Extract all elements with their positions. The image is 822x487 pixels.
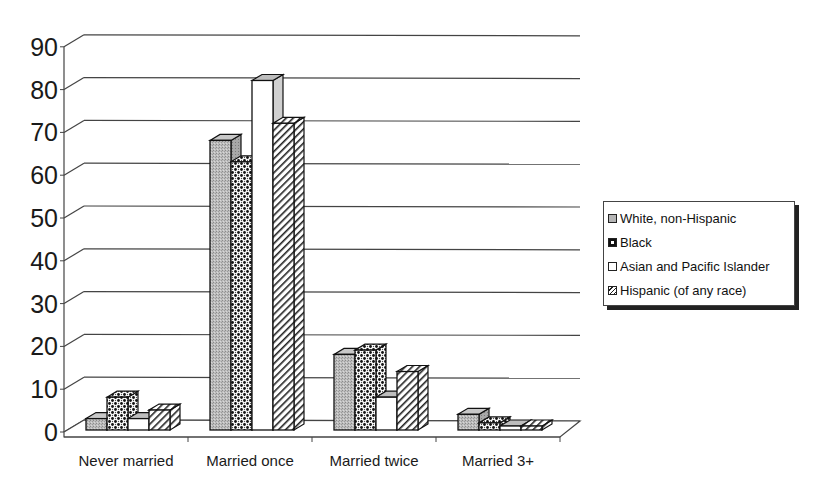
- y-tick-label: 50: [30, 204, 58, 232]
- y-tick-label: 30: [30, 290, 58, 318]
- gridline-depth: [64, 163, 84, 175]
- gridline: [84, 206, 580, 207]
- bar: [252, 80, 273, 430]
- gridline-depth: [64, 249, 84, 261]
- bar-group-married-twice: [334, 344, 428, 430]
- x-tick-label: Married 3+: [462, 452, 534, 469]
- legend-label: Asian and Pacific Islander: [620, 259, 770, 274]
- bar: [334, 354, 355, 430]
- bar: [500, 426, 521, 430]
- gridline: [84, 292, 580, 293]
- legend-item-black: Black: [608, 230, 794, 254]
- gridline: [84, 163, 580, 164]
- chart-legend: White, non-Hispanic Black Asian and Paci…: [603, 201, 795, 306]
- y-tick-label: 40: [30, 247, 58, 275]
- gridline: [84, 249, 580, 250]
- gridline: [84, 78, 580, 79]
- legend-item-white: White, non-Hispanic: [608, 206, 794, 230]
- legend-label: White, non-Hispanic: [620, 211, 736, 226]
- bar-group-never-married: [86, 391, 180, 430]
- y-tick-label: 60: [30, 161, 58, 189]
- bar-group-married-3-: [458, 408, 552, 430]
- bar: [107, 397, 128, 430]
- legend-swatch-white-icon: [608, 262, 617, 271]
- y-tick-label: 0: [44, 418, 58, 446]
- bar: [397, 372, 418, 430]
- bar: [355, 350, 376, 430]
- bar: [149, 410, 170, 430]
- gridline-depth: [64, 78, 84, 90]
- legend-label: Black: [620, 235, 652, 250]
- gridline-depth: [64, 35, 84, 47]
- bar: [521, 426, 542, 430]
- gridline: [84, 377, 580, 378]
- bar-group-married-once: [210, 74, 304, 430]
- gridline: [84, 35, 580, 36]
- bar: [231, 162, 252, 430]
- y-tick-label: 90: [30, 33, 58, 61]
- x-tick-label: Never married: [78, 452, 173, 469]
- bar: [128, 419, 149, 430]
- y-tick-label: 20: [30, 332, 58, 360]
- gridline: [84, 120, 580, 121]
- gridline-depth: [64, 334, 84, 346]
- legend-swatch-hatch-icon: [608, 286, 617, 295]
- legend-label: Hispanic (of any race): [620, 283, 746, 298]
- legend-swatch-gray-icon: [608, 214, 617, 223]
- legend-item-asian: Asian and Pacific Islander: [608, 254, 794, 278]
- bar: [376, 397, 397, 430]
- gridline-depth: [64, 292, 84, 304]
- legend-swatch-dots-icon: [608, 238, 617, 247]
- gridline: [84, 334, 580, 335]
- bar: [458, 414, 479, 430]
- y-tick-label: 80: [30, 76, 58, 104]
- x-tick-label: Married once: [206, 452, 294, 469]
- bar: [273, 123, 294, 430]
- legend-item-hispanic: Hispanic (of any race): [608, 278, 794, 302]
- y-tick-label: 10: [30, 375, 58, 403]
- bar: [86, 419, 107, 430]
- bar-side: [418, 366, 428, 430]
- bar-side: [294, 117, 304, 430]
- x-tick-label: Married twice: [329, 452, 418, 469]
- gridline-depth: [64, 377, 84, 389]
- chart-root: 0102030405060708090Never marriedMarried …: [30, 33, 580, 469]
- bar: [210, 140, 231, 430]
- y-tick-label: 70: [30, 118, 58, 146]
- bar: [479, 423, 500, 430]
- gridline-depth: [64, 206, 84, 218]
- gridline-depth: [64, 120, 84, 132]
